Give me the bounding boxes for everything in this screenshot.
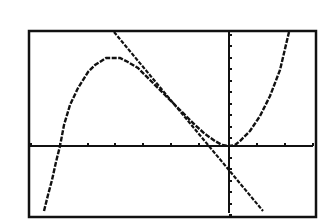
window-frame	[29, 31, 316, 217]
cubic-curve	[44, 32, 289, 211]
graph-plot	[0, 0, 331, 221]
tangent-line	[114, 32, 263, 211]
calculator-graph-screen	[0, 0, 331, 221]
